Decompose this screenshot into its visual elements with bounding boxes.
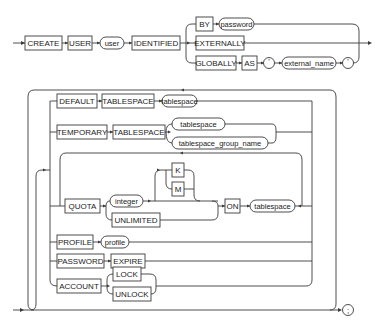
user-keyword-label: USER — [69, 39, 91, 48]
globally-keyword-label: GLOBALLY — [195, 59, 237, 68]
account-keyword-label: ACCOUNT — [59, 282, 99, 291]
expire-keyword-label: EXPIRE — [113, 257, 142, 266]
tablespace-group-name-variable-label: tablespace_group_name — [179, 139, 262, 148]
default-keyword-label: DEFAULT — [59, 97, 95, 106]
by-keyword-label: BY — [199, 20, 210, 29]
lock-keyword-label: LOCK — [116, 270, 138, 279]
k-keyword-label: K — [175, 166, 181, 175]
quota-tablespace-variable-label: tablespace — [254, 202, 290, 211]
password-keyword-label: PASSWORD — [57, 257, 103, 266]
temporary-tablespace-variable-label: tablespace — [180, 120, 216, 129]
syntax-diagram: CREATE USER user IDENTIFIED BY password … — [0, 0, 381, 330]
profile-keyword-label: PROFILE — [58, 238, 92, 247]
integer-variable-label: integer — [115, 197, 138, 206]
external-name-variable-label: external_name — [284, 59, 334, 68]
profile-variable-label: profile — [105, 238, 125, 247]
identified-keyword-label: IDENTIFIED — [134, 39, 179, 48]
semicolon-terminator-label: ; — [347, 306, 349, 315]
m-keyword-label: M — [175, 185, 182, 194]
create-keyword-label: CREATE — [28, 39, 60, 48]
quota-keyword-label: QUOTA — [69, 202, 98, 211]
externally-keyword-label: EXTERNALLY — [194, 39, 246, 48]
as-keyword-label: AS — [244, 59, 255, 68]
default-tablespace-variable-label: tablespace — [161, 97, 197, 106]
temporary-keyword-label: TEMPORARY — [57, 128, 108, 137]
temporary-tablespace-keyword-label: TABLESPACE — [113, 128, 164, 137]
on-keyword-label: ON — [227, 202, 239, 211]
unlock-keyword-label: UNLOCK — [115, 290, 149, 299]
default-tablespace-keyword-label: TABLESPACE — [102, 97, 153, 106]
user-variable-label: user — [105, 39, 120, 48]
unlimited-keyword-label: UNLIMITED — [114, 216, 157, 225]
password-variable-label: password — [220, 20, 252, 29]
